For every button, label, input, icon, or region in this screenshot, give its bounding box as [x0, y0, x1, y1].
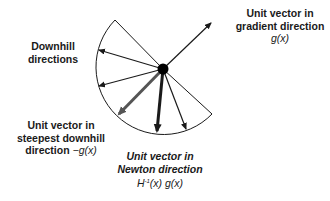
gradient-label-line1: Unit vector in: [232, 7, 328, 20]
steepest-label-line1: Unit vector in: [6, 119, 116, 132]
steepest-label-line2: steepest downhill: [6, 132, 116, 145]
steepest-downhill-arrow: [119, 69, 163, 114]
newton-arrow: [157, 69, 163, 131]
newton-label-line1: Unit vector in: [100, 150, 220, 163]
gradient-formula: g(x): [232, 32, 328, 45]
point-x-dot: [158, 64, 169, 75]
newton-label: Unit vector in Newton direction H-1(x) g…: [100, 150, 220, 190]
gradient-label: Unit vector in gradient direction g(x): [232, 7, 328, 45]
gradient-label-line2: gradient direction: [232, 20, 328, 33]
newton-formula: H-1(x) g(x): [100, 175, 220, 190]
downhill-label: Downhill directions: [18, 40, 88, 65]
downhill-arrow-3: [163, 69, 186, 129]
steepest-label-line3: direction: [25, 144, 72, 156]
gradient-arrow: [163, 23, 211, 69]
downhill-label-line1: Downhill: [18, 40, 88, 53]
steepest-formula: −g(x): [73, 144, 97, 156]
newton-label-line2: Newton direction: [100, 163, 220, 176]
downhill-label-line2: directions: [18, 53, 88, 66]
